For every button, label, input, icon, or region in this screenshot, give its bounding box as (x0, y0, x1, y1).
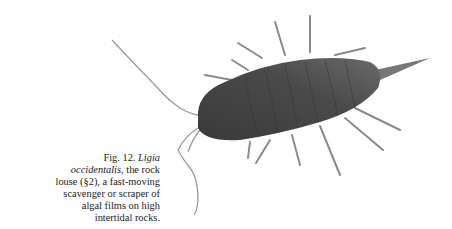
figure-label: Fig. 12. (103, 152, 135, 163)
tail-spike (375, 58, 430, 80)
figure: Fig. 12. Ligia occidentalis, the rock lo… (0, 0, 452, 229)
figure-caption: Fig. 12. Ligia occidentalis, the rock lo… (52, 152, 160, 224)
